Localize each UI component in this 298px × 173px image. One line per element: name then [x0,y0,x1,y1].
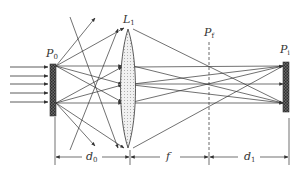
label-focal-plane: Pf [204,27,214,40]
incident-beams [10,67,48,102]
label-dim-f: f [166,151,170,162]
diffracted-rays [56,17,283,150]
label-dim-d0: d0 [86,151,98,164]
lens [121,29,136,148]
image-plate [283,62,289,112]
label-image-plane: Pi [280,44,290,57]
label-source-plane: P0 [46,48,58,61]
source-plate [50,64,56,116]
label-dim-d1: d1 [244,151,256,164]
diagram-canvas [0,0,298,173]
optics-diagram: P0 L1 Pf Pi d0 f d1 [0,0,298,173]
label-lens: L1 [123,14,135,27]
